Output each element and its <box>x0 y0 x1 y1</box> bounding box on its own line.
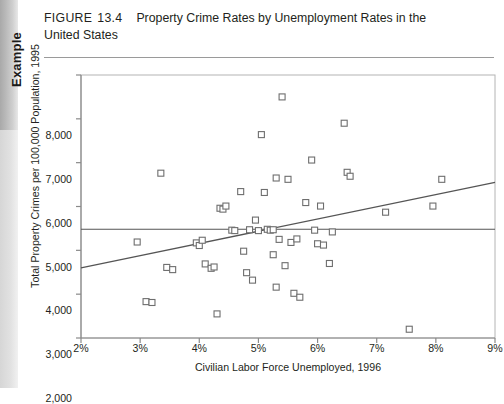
scatter-point <box>315 241 321 247</box>
scatter-point <box>273 175 279 181</box>
scatter-point <box>261 189 267 195</box>
scatter-point <box>318 203 324 209</box>
scatter-point <box>291 290 297 296</box>
scatter-point <box>211 264 217 270</box>
scatter-point <box>276 236 282 242</box>
scatter-point <box>252 217 258 223</box>
scatter-point <box>247 227 253 233</box>
scatter-point <box>329 229 335 235</box>
scatter-point <box>255 228 261 234</box>
scatter-point <box>294 236 300 242</box>
scatter-point <box>282 263 288 269</box>
figure-title-line2: United States <box>44 27 484 44</box>
scatter-point <box>297 294 303 300</box>
scatter-point <box>241 248 247 254</box>
scatter-point <box>320 242 326 248</box>
scatter-point <box>303 200 309 206</box>
scatter-point <box>164 264 170 270</box>
scatter-point <box>347 173 353 179</box>
scatter-point <box>341 120 347 126</box>
scatter-point <box>288 239 294 245</box>
scatter-chart: Total Property Crimes per 100,000 Popula… <box>0 60 504 388</box>
scatter-point <box>223 203 229 209</box>
scatter-point <box>309 157 315 163</box>
figure-number: 13.4 <box>97 11 122 25</box>
scatter-point <box>199 237 205 243</box>
scatter-point <box>143 299 149 305</box>
figure-label: FIGURE <box>44 11 92 25</box>
scatter-point <box>202 261 208 267</box>
scatter-point <box>279 94 285 100</box>
scatter-point <box>430 203 436 209</box>
figure-title-line1: Property Crime Rates by Unemployment Rat… <box>136 11 426 25</box>
scatter-point <box>270 227 276 233</box>
scatter-point <box>439 176 445 182</box>
scatter-point <box>170 267 176 273</box>
scatter-point <box>258 132 264 138</box>
plot-area <box>0 60 504 388</box>
header-divider <box>44 57 494 58</box>
scatter-point <box>214 311 220 317</box>
scatter-point <box>238 189 244 195</box>
scatter-point <box>270 252 276 258</box>
regression-line <box>81 182 495 267</box>
y-axis-tick-label: 2,000 <box>32 392 72 404</box>
scatter-point <box>273 284 279 290</box>
scatter-point <box>326 260 332 266</box>
scatter-point <box>244 270 250 276</box>
figure-header: FIGURE13.4Property Crime Rates by Unempl… <box>44 10 484 44</box>
scatter-point <box>312 227 318 233</box>
scatter-point <box>383 209 389 215</box>
scatter-point <box>149 299 155 305</box>
scatter-point <box>250 277 256 283</box>
scatter-point <box>158 170 164 176</box>
scatter-point <box>406 326 412 332</box>
scatter-point <box>285 176 291 182</box>
scatter-point <box>134 239 140 245</box>
scatter-point <box>232 228 238 234</box>
